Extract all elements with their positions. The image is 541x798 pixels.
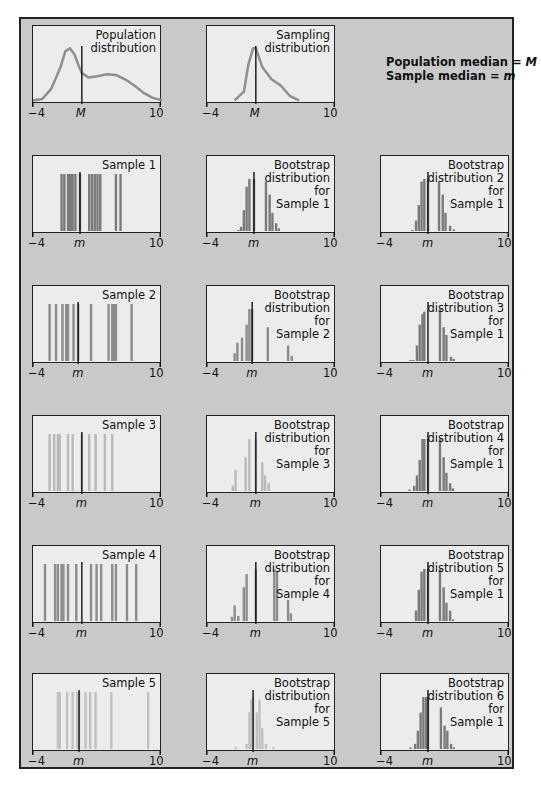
panel-boot-s5: Bootstrap distribution for Sample 5 [206,673,335,751]
histogram-bar [248,439,250,491]
median-label: m [422,496,433,510]
axis-min-label: −4 [28,496,45,510]
axis-max-label: 10 [497,366,512,380]
x-axis: −410m [380,492,509,512]
observation-line [96,174,98,231]
histogram-bar [453,229,455,231]
panel-title: Bootstrap distribution for Sample 2 [264,289,330,341]
observation-line [111,434,113,491]
axis-min-label: −4 [202,236,219,250]
histogram-bar [449,226,451,231]
axis-max-label: 10 [497,496,512,510]
panel-title: Bootstrap distribution for Sample 1 [264,159,330,211]
observation-line [71,434,73,491]
histogram-bar [423,312,425,361]
panel-title: Bootstrap distribution 6 for Sample 1 [427,677,504,729]
observation-line [94,174,96,231]
histogram-bar [450,744,452,749]
panel-sample5: Sample 5 [32,673,161,751]
axis-max-label: 10 [497,626,512,640]
histogram-bar [278,228,280,231]
histogram-bar [419,460,421,491]
observation-line [90,304,92,361]
histogram-bar [287,600,289,621]
panel-sample4: Sample 4 [32,545,161,623]
histogram-bar [414,744,416,749]
axis-max-label: 10 [497,236,512,250]
median-label: m [422,626,433,640]
histogram-bar [413,486,415,491]
median-label: m [246,366,257,380]
panel-boot3-s1: Bootstrap distribution 3 for Sample 1 [380,285,509,363]
x-axis: −410m [206,622,335,642]
histogram-bar [419,325,421,361]
x-axis: −410m [380,622,509,642]
panel-title: Sample 5 [102,677,156,690]
x-axis: −410m [380,232,509,252]
observation-line [130,304,132,361]
histogram-bar [245,457,247,491]
histogram-bar [411,230,413,231]
median-label: m [73,754,84,768]
legend-label: Sample median = [386,69,504,83]
histogram-bar [443,726,445,749]
observation-line [90,564,92,621]
histogram-bar [409,747,411,749]
histogram-bar [241,338,243,361]
axis-max-label: 10 [497,754,512,768]
observation-line [67,434,69,491]
axis-max-label: 10 [323,754,338,768]
observation-line [48,304,50,361]
panel-title: Bootstrap distribution for Sample 5 [264,677,330,729]
median-label: m [250,626,261,640]
axis-min-label: −4 [202,626,219,640]
axis-max-label: 10 [149,754,164,768]
median-label: m [250,496,261,510]
histogram-bar [232,486,234,491]
histogram-bar [234,747,236,749]
observation-line [72,304,74,361]
panel-title: Bootstrap distribution 4 for Sample 1 [427,419,504,471]
axis-min-label: −4 [376,496,393,510]
histogram-bar [237,230,239,231]
histogram-bar [272,747,274,749]
x-axis: −410m [32,362,161,382]
histogram-bar [416,345,418,361]
axis-min-label: −4 [202,754,219,768]
median-legend: Population median = M Sample median = m [386,55,537,83]
panel-title: Bootstrap distribution for Sample 4 [264,549,330,601]
histogram-bar [275,223,277,231]
histogram-bar [452,488,454,491]
observation-line [59,692,61,749]
observation-line [62,564,64,621]
histogram-bar [245,325,247,361]
histogram-bar [234,470,236,491]
axis-min-label: −4 [28,106,45,120]
observation-line [71,174,73,231]
legend-label: Population median = [386,55,526,69]
axis-min-label: −4 [28,236,45,250]
histogram-bar [422,697,424,749]
histogram-bar [420,182,422,231]
histogram-bar [449,483,451,491]
histogram-bar [449,611,451,621]
axis-max-label: 10 [323,496,338,510]
observation-line [59,434,61,491]
panel-boot-s3: Bootstrap distribution for Sample 3 [206,415,335,493]
panel-title: Bootstrap distribution 3 for Sample 1 [427,289,504,341]
histogram-bar [233,605,235,621]
histogram-bar [418,205,420,231]
panel-boot2-s1: Bootstrap distribution 2 for Sample 1 [380,155,509,233]
panel-title: Sample 1 [102,159,156,172]
histogram-bar [446,731,448,749]
observation-line [61,304,63,361]
panel-sample1: Sample 1 [32,155,161,233]
observation-line [100,564,102,621]
axis-max-label: 10 [323,106,338,120]
axis-max-label: 10 [149,236,164,250]
panel-title: Sampling distribution [264,29,330,55]
axis-min-label: −4 [376,236,393,250]
x-axis: −410m [380,750,509,770]
axis-max-label: 10 [323,236,338,250]
axis-min-label: −4 [202,496,219,510]
